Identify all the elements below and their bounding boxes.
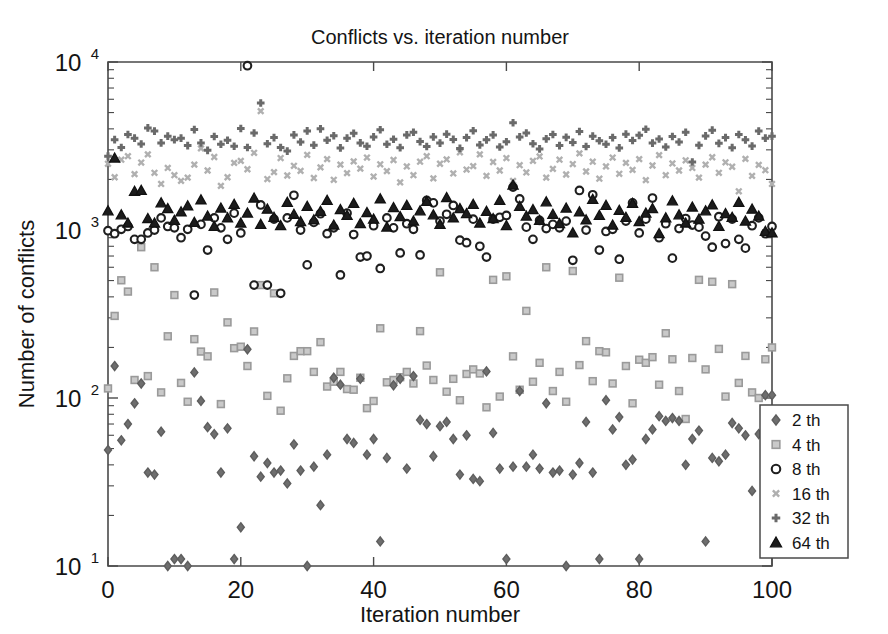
- legend-label: 32 th: [792, 509, 830, 528]
- data-point: [529, 236, 537, 244]
- data-point: [410, 225, 418, 233]
- data-point: [323, 230, 331, 238]
- data-point: [623, 363, 630, 370]
- data-point: [111, 313, 118, 320]
- data-point: [437, 269, 444, 276]
- data-point: [151, 264, 158, 271]
- data-point: [204, 246, 212, 254]
- legend-label: 2 th: [792, 411, 820, 430]
- x-tick-label-0: 0: [101, 576, 114, 603]
- y-tick-label-base-3: 10: [55, 49, 82, 76]
- data-point: [702, 366, 709, 373]
- figure-container: Conflicts vs. iteration number 020406080…: [0, 0, 888, 634]
- data-point: [171, 224, 179, 232]
- data-point: [742, 353, 749, 360]
- data-point: [722, 240, 730, 248]
- data-point: [350, 386, 357, 393]
- data-point: [536, 359, 543, 366]
- data-point: [317, 339, 324, 346]
- data-point: [303, 261, 311, 269]
- data-point: [277, 407, 284, 414]
- data-point: [583, 338, 590, 345]
- data-point: [769, 344, 776, 351]
- data-point: [184, 398, 191, 405]
- data-point: [396, 249, 404, 257]
- data-point: [403, 369, 410, 376]
- data-point: [131, 377, 138, 384]
- data-point: [463, 239, 471, 247]
- data-point: [490, 276, 497, 283]
- data-point: [251, 328, 258, 335]
- data-point: [649, 194, 657, 202]
- legend[interactable]: 2 th4 th8 th16 th32 th64 th: [760, 405, 848, 558]
- y-tick-label-exp-2: 3: [91, 213, 99, 230]
- data-point: [457, 397, 464, 404]
- data-point: [237, 343, 244, 350]
- data-point: [237, 229, 245, 237]
- data-point: [503, 212, 511, 220]
- data-point: [138, 244, 145, 251]
- data-point: [264, 281, 272, 289]
- data-point: [483, 253, 491, 261]
- data-point: [416, 251, 424, 259]
- data-point: [250, 281, 258, 289]
- data-point: [204, 353, 211, 360]
- data-point: [364, 405, 371, 412]
- data-point: [177, 234, 185, 242]
- data-point: [264, 392, 271, 399]
- data-point: [171, 292, 178, 299]
- data-point: [609, 380, 616, 387]
- data-point: [178, 379, 185, 386]
- y-tick-label-exp-1: 2: [91, 381, 99, 398]
- data-point: [702, 232, 710, 240]
- plot-background: [0, 0, 888, 634]
- data-point: [191, 336, 198, 343]
- data-point: [463, 371, 470, 378]
- data-point: [596, 246, 604, 254]
- data-point: [556, 369, 563, 376]
- data-point: [157, 214, 165, 222]
- data-point: [277, 289, 285, 297]
- data-point: [144, 373, 151, 380]
- data-point: [224, 319, 231, 326]
- data-point: [137, 236, 145, 244]
- scatter-plot[interactable]: Conflicts vs. iteration number 020406080…: [0, 0, 888, 634]
- data-point: [735, 379, 742, 386]
- data-point: [118, 277, 125, 284]
- x-tick-label-80: 80: [626, 576, 653, 603]
- data-point: [291, 353, 298, 360]
- legend-label: 4 th: [792, 436, 820, 455]
- data-point: [569, 268, 576, 275]
- data-point: [503, 273, 510, 280]
- data-point: [310, 369, 317, 376]
- data-point: [596, 348, 603, 355]
- data-point: [569, 256, 577, 264]
- data-point: [337, 271, 345, 279]
- x-tick-label-60: 60: [493, 576, 520, 603]
- data-point: [576, 187, 584, 195]
- data-point: [715, 346, 722, 353]
- data-point: [105, 385, 112, 392]
- x-tick-label-20: 20: [227, 576, 254, 603]
- data-point: [749, 389, 756, 396]
- data-point: [689, 355, 696, 362]
- data-point: [376, 265, 384, 273]
- data-point: [696, 276, 703, 283]
- data-point: [190, 291, 198, 299]
- legend-marker-square-icon: [772, 441, 780, 449]
- data-point: [603, 349, 610, 356]
- legend-label: 8 th: [792, 460, 820, 479]
- data-point: [636, 356, 643, 363]
- y-tick-label-base-2: 10: [55, 217, 82, 244]
- data-point: [649, 354, 656, 361]
- data-point: [363, 252, 371, 260]
- data-point: [430, 377, 437, 384]
- y-tick-label-exp-0: 1: [91, 549, 99, 566]
- data-point: [656, 381, 663, 388]
- data-point: [337, 369, 344, 376]
- data-point: [543, 264, 550, 271]
- data-point: [742, 244, 750, 252]
- data-point: [224, 236, 232, 244]
- data-point: [290, 191, 298, 199]
- data-point: [483, 404, 490, 411]
